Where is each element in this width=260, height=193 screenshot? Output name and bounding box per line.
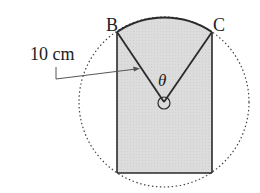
label-c: C	[213, 15, 225, 35]
shaded-shape	[117, 17, 212, 173]
label-angle: θ	[158, 71, 166, 90]
geometry-diagram: B C 10 cm θ	[0, 0, 260, 193]
label-length: 10 cm	[30, 44, 75, 64]
label-b: B	[106, 15, 118, 35]
